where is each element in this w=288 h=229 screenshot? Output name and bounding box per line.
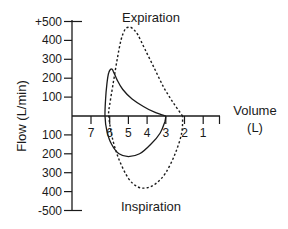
expiration-label: Expiration — [122, 10, 180, 25]
y-tick-label: +500 — [35, 15, 62, 29]
curves — [105, 27, 183, 188]
y-tick-label: 200 — [42, 71, 62, 85]
x-axis-label: Volume — [233, 103, 276, 118]
flow-volume-loop-diagram: +500400300200100100200300400-500 7654321… — [0, 0, 288, 229]
x-axis-unit-label: (L) — [247, 120, 263, 135]
y-tick-label: 400 — [42, 185, 62, 199]
x-tick-label: 5 — [125, 126, 132, 140]
x-tick-label: 3 — [162, 126, 169, 140]
y-tick-label: 200 — [42, 147, 62, 161]
x-tick-label: 4 — [144, 126, 151, 140]
x-tick-label: 7 — [88, 126, 95, 140]
y-tick-label: 300 — [42, 166, 62, 180]
inspiration-label: Inspiration — [121, 199, 181, 214]
y-tick-label: 100 — [42, 128, 62, 142]
y-tick-label: 400 — [42, 33, 62, 47]
y-axis-label: Flow (L/min) — [14, 80, 29, 152]
y-tick-label: -500 — [38, 204, 62, 218]
y-tick-label: 300 — [42, 52, 62, 66]
x-tick-label: 1 — [200, 126, 207, 140]
y-tick-label: 100 — [42, 90, 62, 104]
